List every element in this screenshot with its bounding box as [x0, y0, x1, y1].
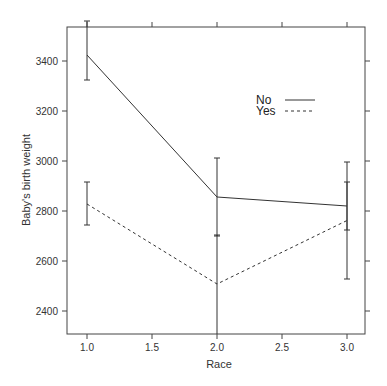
y-tick-label: 2800 [36, 206, 59, 217]
line-chart: 240026002800300032003400 1.01.52.02.53.0… [0, 0, 387, 386]
y-axis-label: Baby's birth weight [20, 134, 32, 226]
y-axis: 240026002800300032003400 [36, 56, 370, 317]
x-tick-label: 2.5 [275, 342, 289, 353]
y-tick-label: 3400 [36, 56, 59, 67]
y-tick-label: 2400 [36, 306, 59, 317]
plot-frame [67, 27, 365, 334]
plot-border [67, 27, 365, 334]
y-tick-label: 3200 [36, 106, 59, 117]
x-tick-label: 3.0 [340, 342, 354, 353]
x-axis-label: Race [206, 358, 232, 370]
data-series [84, 21, 350, 339]
x-tick-label: 1.0 [80, 342, 94, 353]
x-tick-label: 2.0 [210, 342, 224, 353]
x-tick-label: 1.5 [145, 342, 159, 353]
y-tick-label: 2600 [36, 256, 59, 267]
y-tick-label: 3000 [36, 156, 59, 167]
legend: NoYes [256, 93, 315, 118]
legend-label-yes: Yes [256, 104, 276, 118]
